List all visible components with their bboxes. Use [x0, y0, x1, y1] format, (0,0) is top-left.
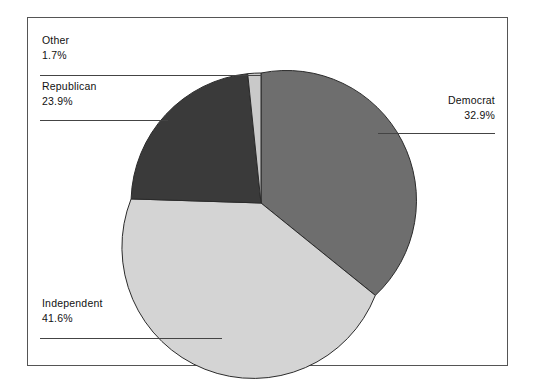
pie-label-independent: Independent 41.6% [42, 296, 103, 326]
pie-label-other-value: 1.7% [42, 48, 69, 63]
leader-line-independent [40, 338, 222, 339]
pie-label-other: Other 1.7% [42, 33, 69, 63]
pie-label-democrat-category: Democrat [393, 93, 495, 108]
pie-label-democrat: Democrat 32.9% [393, 93, 495, 123]
pie-label-other-category: Other [42, 33, 69, 48]
pie-label-independent-value: 41.6% [42, 311, 103, 326]
pie-label-republican-category: Republican [42, 79, 97, 94]
leader-line-other [40, 75, 262, 76]
pie-slice-republican[interactable] [131, 74, 261, 203]
pie-label-independent-category: Independent [42, 296, 103, 311]
leader-line-democrat [378, 133, 495, 134]
pie-label-republican-value: 23.9% [42, 94, 97, 109]
pie-label-democrat-value: 32.9% [393, 108, 495, 123]
pie-label-republican: Republican 23.9% [42, 79, 97, 109]
leader-line-republican [40, 120, 168, 121]
pie-chart [0, 0, 535, 388]
